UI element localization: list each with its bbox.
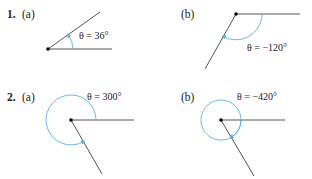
angle-1b xyxy=(205,12,300,69)
angle-1a xyxy=(46,12,112,51)
angle-2a xyxy=(46,95,134,174)
angle-diagrams xyxy=(0,0,312,179)
angle-2b xyxy=(201,100,285,176)
